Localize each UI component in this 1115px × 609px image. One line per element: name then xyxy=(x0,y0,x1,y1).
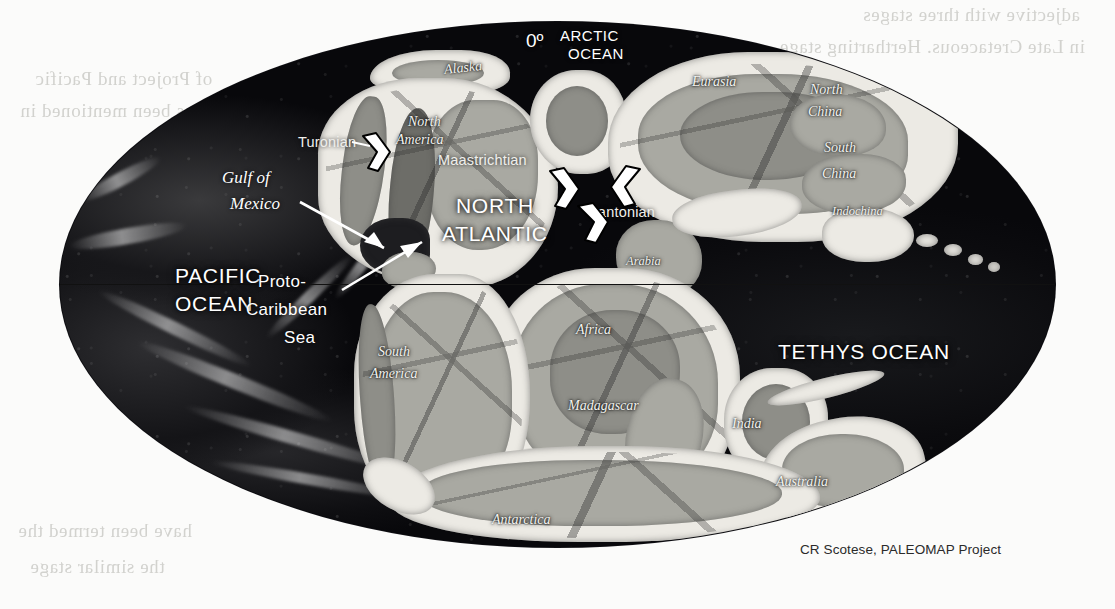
label-pacific-ocean-line1: PACIFIC xyxy=(175,264,261,288)
scanned-page: adjective with three stages in Late Cret… xyxy=(0,0,1115,609)
label-tethys-ocean: TETHYS OCEAN xyxy=(778,340,950,364)
label-australia: Australia xyxy=(776,474,828,490)
map-oval-frame: 0º ARCTIC OCEAN Alaska North America Eur… xyxy=(60,22,1055,547)
proto-caribbean-pointer-arrow-icon xyxy=(338,234,434,296)
label-north-china-line1: North xyxy=(810,82,843,98)
antarctica-craton-lines xyxy=(398,452,812,538)
label-south-china-line1: South xyxy=(824,140,856,156)
label-north-atlantic-line1: NORTH xyxy=(456,194,534,218)
greenland-highland xyxy=(546,86,608,156)
label-maastrichtian: Maastrichtian xyxy=(438,152,527,168)
label-pacific-ocean-line2: OCEAN xyxy=(175,292,253,316)
label-proto-caribbean-line2: Caribbean xyxy=(246,300,327,319)
label-south-america-line2: America xyxy=(370,366,417,382)
eastern-island-arc xyxy=(944,244,962,256)
label-north-america-line1: North xyxy=(408,114,441,130)
turonian-spreading-arrow-icon xyxy=(360,130,406,174)
eastern-island-arc xyxy=(968,254,983,265)
eastern-island-arc xyxy=(916,234,938,247)
label-proto-caribbean-line1: Proto- xyxy=(258,272,306,291)
prime-meridian-label: 0º xyxy=(526,30,544,51)
eastern-island-arc xyxy=(988,262,1000,272)
label-madagascar: Madagascar xyxy=(568,398,639,414)
label-antarctica: Antarctica xyxy=(492,512,551,528)
label-turonian: Turonian xyxy=(298,134,356,150)
map-credit: CR Scotese, PALEOMAP Project xyxy=(800,542,1001,557)
label-gulf-of-mexico-line1: Gulf of xyxy=(222,168,270,187)
label-gulf-of-mexico-line2: Mexico xyxy=(230,194,280,213)
santonian-spreading-arrow-icon xyxy=(574,200,622,246)
label-north-china-line2: China xyxy=(808,104,842,120)
label-proto-caribbean-line3: Sea xyxy=(284,328,315,347)
label-north-atlantic-line2: ATLANTIC xyxy=(442,222,548,246)
global-paleogeographic-map: 0º ARCTIC OCEAN Alaska North America Eur… xyxy=(60,22,1055,547)
label-arabia: Arabia xyxy=(626,254,661,268)
label-arctic-ocean-line1: ARCTIC xyxy=(560,28,619,45)
bleed-line: the similar stage xyxy=(30,556,165,578)
turonian-leader-line xyxy=(352,138,374,150)
label-arctic-ocean-line2: OCEAN xyxy=(568,46,624,63)
label-eurasia: Eurasia xyxy=(692,74,736,90)
label-south-china-line2: China xyxy=(822,166,856,182)
label-india: India xyxy=(732,416,762,432)
label-indochina: Indochina xyxy=(832,204,883,218)
label-africa: Africa xyxy=(576,322,611,338)
label-south-america-line1: South xyxy=(378,344,410,360)
